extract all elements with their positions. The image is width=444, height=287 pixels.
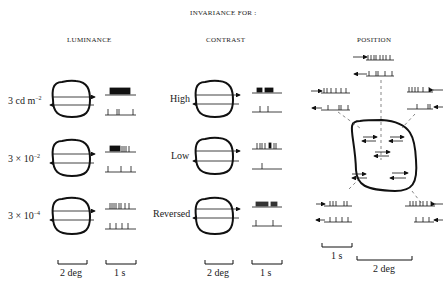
position-rf: [352, 120, 417, 191]
contrast-rf-3: [193, 198, 240, 234]
luminance-spikes: [105, 88, 136, 229]
contrast-scale-space: 2 deg: [207, 267, 229, 278]
position-scale-space: 2 deg: [373, 263, 395, 274]
heading-contrast: CONTRAST: [206, 36, 245, 44]
luminance-row-label-2: 3 × 10−2: [8, 153, 40, 164]
position-arrows: [352, 137, 408, 178]
luminance-row-label-3: 3 × 10−4: [8, 210, 40, 221]
contrast-rf-2: [193, 138, 240, 174]
luminance-scale-bars: [58, 260, 136, 264]
luminance-row-label-1: 3 cd m−2: [8, 95, 42, 106]
contrast-spikes: [252, 88, 282, 226]
position-spikes: [311, 55, 443, 222]
luminance-scale-time: 1 s: [114, 267, 125, 278]
position-scale-time: 1 s: [331, 250, 342, 261]
contrast-row-label-reversed: Reversed: [153, 208, 190, 219]
luminance-rf-2: [50, 140, 95, 176]
contrast-scale-time: 1 s: [260, 267, 271, 278]
figure-title: INVARIANCE FOR :: [190, 9, 257, 17]
heading-luminance: LUMINANCE: [67, 36, 112, 44]
luminance-rf-1: [50, 81, 95, 117]
contrast-scale-bars: [205, 260, 282, 264]
luminance-rf-3: [50, 198, 95, 234]
contrast-row-label-high: High: [170, 93, 190, 104]
heading-position: POSITION: [357, 36, 391, 44]
position-connectors: [338, 80, 422, 204]
contrast-rf-1: [193, 81, 240, 117]
luminance-scale-space: 2 deg: [60, 267, 82, 278]
contrast-row-label-low: Low: [171, 150, 189, 161]
